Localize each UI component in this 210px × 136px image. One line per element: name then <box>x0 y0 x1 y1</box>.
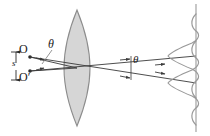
label-theta-object-side: θ <box>48 38 54 50</box>
diagram-canvas <box>0 0 210 136</box>
label-object-o: O <box>19 43 28 55</box>
label-object-o-prime: O′ <box>19 71 30 83</box>
label-theta-image-side: θ <box>133 54 138 65</box>
ray-bundle-upper-object <box>30 57 196 83</box>
label-separation-s: s <box>12 59 16 68</box>
optics-diagram-figure: O O′ s θ θ <box>0 0 210 136</box>
